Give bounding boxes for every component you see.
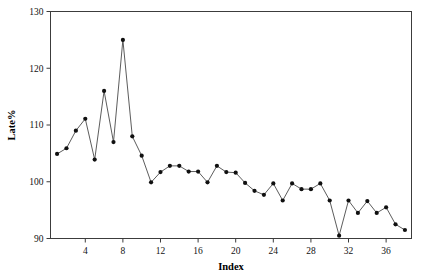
data-point [290,181,294,185]
data-point [365,199,369,203]
data-point [271,181,275,185]
x-tick-label: 20 [231,246,241,256]
x-tick-label: 24 [269,246,279,256]
data-point [177,164,181,168]
data-point [149,180,153,184]
data-point [243,181,247,185]
data-point [281,198,285,202]
data-point [403,228,407,232]
data-point [168,164,172,168]
data-point [337,234,341,238]
data-point [74,129,78,133]
data-point [299,187,303,191]
x-tick-label: 32 [344,246,354,256]
data-point [187,169,191,173]
data-point [205,180,209,184]
chart-canvas: 901001101201304812162024283236IndexLate% [0,0,424,277]
data-point [93,158,97,162]
data-point [111,140,115,144]
line-chart: 901001101201304812162024283236IndexLate% [0,0,424,277]
y-tick-label: 120 [29,64,44,74]
data-point [384,205,388,209]
data-point [64,146,68,150]
data-point [262,193,266,197]
series-line-late-pct [57,40,405,236]
data-point [328,198,332,202]
data-point [130,134,134,138]
x-axis: 4812162024283236 [83,239,391,256]
x-tick-label: 12 [156,246,166,256]
data-point [356,211,360,215]
data-point [83,117,87,121]
data-point [158,170,162,174]
y-tick-label: 130 [29,7,44,17]
data-point [318,181,322,185]
data-point [234,171,238,175]
data-point [224,170,228,174]
data-point [121,38,125,42]
y-tick-label: 90 [34,234,44,244]
x-axis-title: Index [218,261,244,272]
x-tick-label: 4 [83,246,88,256]
data-point [393,222,397,226]
data-point [375,211,379,215]
y-axis: 90100110120130 [29,7,50,244]
plot-frame [51,12,412,239]
x-tick-label: 28 [306,246,316,256]
data-point [309,187,313,191]
data-point [215,164,219,168]
data-point [55,152,59,156]
x-tick-label: 16 [193,246,203,256]
data-point [102,89,106,93]
y-axis-title: Late% [6,110,17,141]
data-point [252,189,256,193]
data-point [346,198,350,202]
x-tick-label: 8 [121,246,126,256]
x-tick-label: 36 [381,246,391,256]
data-point [196,169,200,173]
y-tick-label: 110 [30,120,44,130]
data-point [140,154,144,158]
y-tick-label: 100 [29,177,44,187]
